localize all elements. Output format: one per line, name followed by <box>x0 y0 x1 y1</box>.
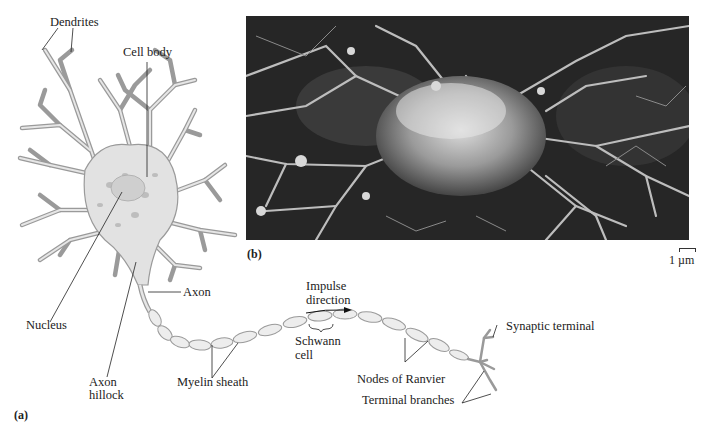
label-myelin-sheath: Myelin sheath <box>177 375 248 389</box>
label-terminal-branches: Terminal branches <box>362 393 455 407</box>
label-impulse-2: direction <box>306 293 350 307</box>
label-nucleus: Nucleus <box>26 318 67 332</box>
terminal-branches-shape <box>468 330 496 390</box>
label-axon: Axon <box>183 285 211 299</box>
label-cell-body: Cell body <box>123 45 172 59</box>
label-axon-hillock-1: Axon <box>89 375 117 389</box>
panel-a-tag: (a) <box>14 408 28 423</box>
axon-hillock-leader <box>107 262 136 377</box>
label-axon-hillock-2: hillock <box>89 388 124 402</box>
schwann-brace <box>309 324 333 332</box>
label-schwann-2: cell <box>295 348 313 362</box>
label-dendrites: Dendrites <box>50 15 99 29</box>
neuron-drawing <box>0 0 712 425</box>
label-schwann-1: Schwann <box>295 334 341 348</box>
nucleus-shape <box>111 175 145 201</box>
label-nodes-of-ranvier: Nodes of Ranvier <box>357 372 445 386</box>
label-synaptic-terminal: Synaptic terminal <box>506 319 595 333</box>
dendrites-leader <box>42 28 73 52</box>
synaptic-terminal-leader <box>493 325 497 337</box>
label-impulse-1: Impulse <box>306 279 346 293</box>
cell-body-shape <box>84 144 178 285</box>
